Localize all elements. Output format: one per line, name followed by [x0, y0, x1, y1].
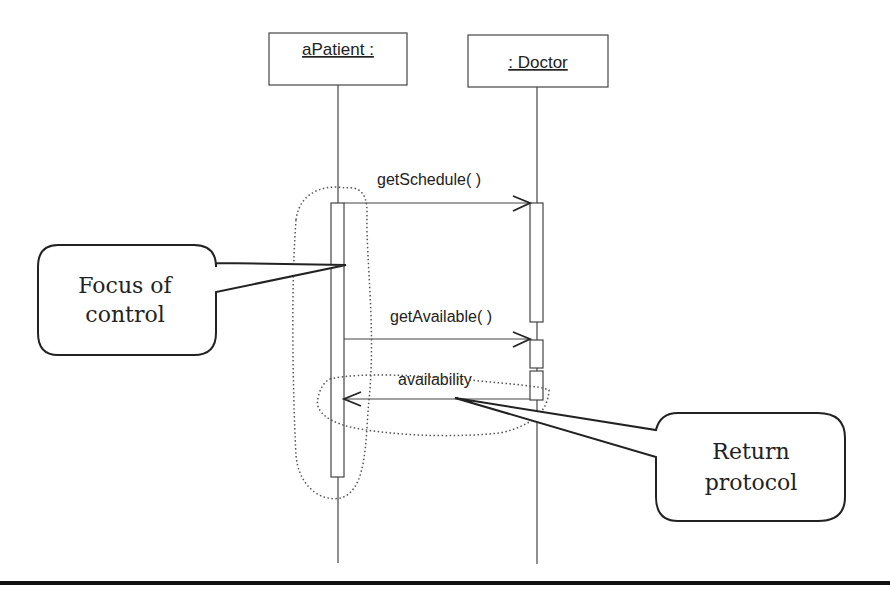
message-getschedule: getSchedule( ): [344, 171, 530, 211]
activation-bar-doctor-1: [530, 203, 543, 322]
callout-focus-of-control-bubble: [38, 245, 346, 355]
sequence-diagram: aPatient : : Doctor getSchedule( ) getAv…: [0, 0, 890, 598]
activation-bar-doctor-2: [530, 340, 543, 368]
callout-return-protocol: Return protocol: [455, 398, 845, 521]
callout-return-protocol-line2: protocol: [705, 470, 798, 495]
message-availability-label: availability: [398, 371, 472, 388]
message-availability-return: availability: [344, 371, 530, 406]
activation-bar-doctor-3: [530, 371, 543, 400]
message-getavailable-label: getAvailable( ): [390, 308, 492, 325]
bottom-rule: [0, 581, 890, 585]
message-getschedule-label: getSchedule( ): [377, 171, 481, 188]
callout-return-protocol-line1: Return: [712, 439, 789, 464]
callout-focus-of-control-line2: control: [85, 302, 164, 327]
lifeline-patient-label-line1: aPatient :: [302, 40, 374, 59]
callout-focus-of-control-line1: Focus of: [78, 273, 173, 298]
lifeline-doctor-label: : Doctor: [508, 53, 568, 72]
callout-focus-of-control: Focus of control: [38, 245, 346, 355]
activation-bar-patient: [331, 203, 344, 477]
